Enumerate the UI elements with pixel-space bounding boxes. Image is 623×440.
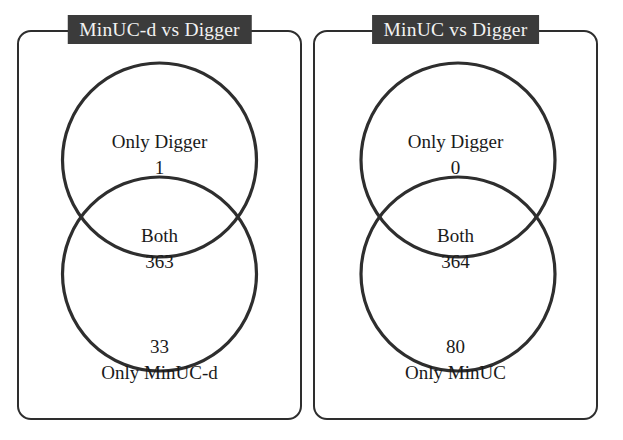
panel-minuc-vs-digger: MinUC vs Digger Only Digger 0 Both 364 8… <box>313 30 598 420</box>
panel-minucd-vs-digger: MinUC-d vs Digger Only Digger 1 Both 363… <box>17 30 302 420</box>
region-value-both: 364 <box>313 250 598 273</box>
region-label-only-digger: Only Digger <box>313 130 598 153</box>
region-label-only-digger: Only Digger <box>17 130 302 153</box>
region-value-only-minucd: 33 <box>17 335 302 358</box>
region-label-only-minuc: Only MinUC <box>313 361 598 384</box>
panel-title-banner: MinUC vs Digger <box>372 15 540 44</box>
region-value-only-digger: 1 <box>17 156 302 179</box>
panel-title-banner: MinUC-d vs Digger <box>67 15 251 44</box>
region-label-both: Both <box>313 224 598 247</box>
region-label-only-minucd: Only MinUC-d <box>17 361 302 384</box>
region-value-only-minuc: 80 <box>313 335 598 358</box>
region-value-only-digger: 0 <box>313 156 598 179</box>
region-label-both: Both <box>17 224 302 247</box>
region-value-both: 363 <box>17 250 302 273</box>
venn-figure: MinUC-d vs Digger Only Digger 1 Both 363… <box>0 0 623 440</box>
